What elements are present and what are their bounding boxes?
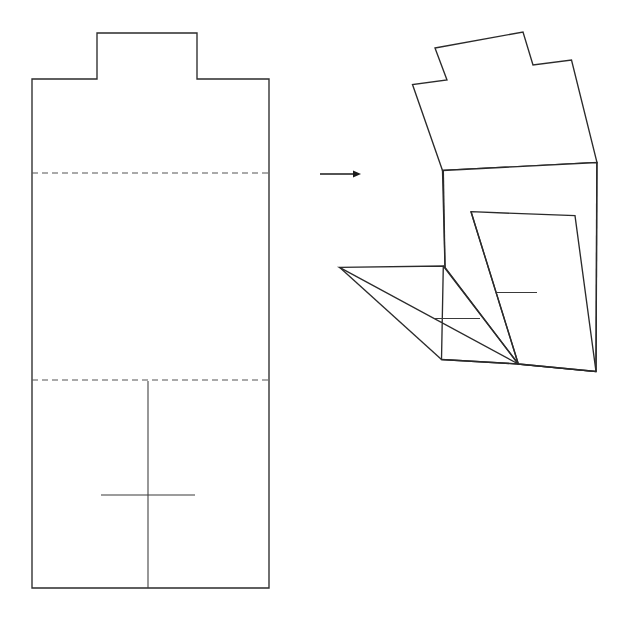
folded-right-vertical-edge [596,163,597,372]
folding-diagram-figure [0,0,629,618]
flat-net-outline [32,33,269,588]
flat-net-group [32,33,269,588]
